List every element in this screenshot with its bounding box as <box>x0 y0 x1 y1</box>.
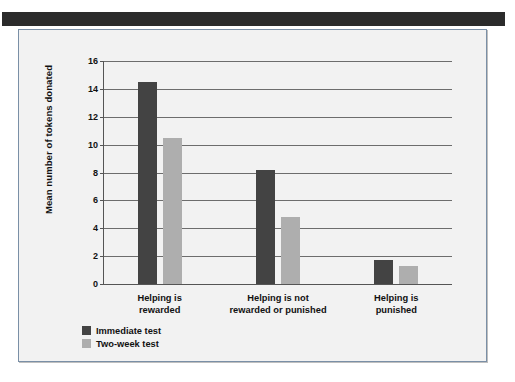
y-tick-label: 10 <box>88 140 98 150</box>
x-category-label-line: punished <box>374 304 418 316</box>
bar <box>256 170 275 284</box>
bar <box>374 260 393 284</box>
y-tick-label: 14 <box>88 84 98 94</box>
y-tick-mark <box>100 117 104 118</box>
y-tick-label: 6 <box>93 195 98 205</box>
y-tick-mark <box>100 284 104 285</box>
y-tick-label: 12 <box>88 112 98 122</box>
bar <box>163 138 182 284</box>
y-tick-mark <box>100 256 104 257</box>
y-tick-mark <box>100 228 104 229</box>
legend-swatch <box>82 326 91 335</box>
x-category-label-line: Helping is <box>374 292 418 304</box>
y-tick-mark <box>100 145 104 146</box>
figure-page: Mean number of tokens donated 0246810121… <box>0 0 515 382</box>
chart-legend: Immediate testTwo-week test <box>82 324 161 350</box>
legend-item: Immediate test <box>82 324 161 337</box>
y-tick-mark <box>100 200 104 201</box>
y-tick-label: 8 <box>93 168 98 178</box>
plot-area: 0246810121416Helping isrewardedHelping i… <box>103 61 452 285</box>
y-tick-label: 0 <box>93 279 98 289</box>
bar <box>138 82 157 284</box>
y-tick-label: 4 <box>93 223 98 233</box>
y-tick-label: 16 <box>88 56 98 66</box>
x-category-label-line: rewarded or punished <box>229 304 326 316</box>
x-category-label-line: Helping is not <box>229 292 326 304</box>
legend-label: Immediate test <box>96 326 161 336</box>
bar <box>281 217 300 284</box>
bar-group: Helping isrewarded <box>136 61 184 284</box>
bar-chart: Mean number of tokens donated 0246810121… <box>19 30 486 361</box>
y-tick-mark <box>100 173 104 174</box>
y-tick-mark <box>100 89 104 90</box>
y-axis-title: Mean number of tokens donated <box>43 45 54 235</box>
y-tick-label: 2 <box>93 251 98 261</box>
legend-swatch <box>82 339 91 348</box>
x-category-label: Helping isrewarded <box>137 292 181 316</box>
legend-item: Two-week test <box>82 337 161 350</box>
legend-label: Two-week test <box>96 339 159 349</box>
bar <box>399 266 418 284</box>
header-band <box>2 12 505 26</box>
x-category-label: Helping ispunished <box>374 292 418 316</box>
x-category-label-line: Helping is <box>137 292 181 304</box>
bar-group: Helping ispunished <box>372 61 420 284</box>
y-tick-mark <box>100 61 104 62</box>
bar-group: Helping is notrewarded or punished <box>254 61 302 284</box>
figure-frame: Mean number of tokens donated 0246810121… <box>18 29 487 362</box>
x-category-label: Helping is notrewarded or punished <box>229 292 326 316</box>
x-category-label-line: rewarded <box>137 304 181 316</box>
